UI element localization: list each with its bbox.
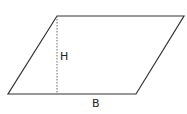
parallelogram-outline [8, 16, 184, 94]
base-label: B [92, 97, 100, 110]
height-label: H [60, 50, 68, 63]
parallelogram-diagram: H B [0, 0, 187, 114]
